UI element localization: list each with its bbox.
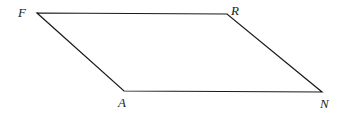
vertex-label-F: F	[18, 6, 26, 19]
vertex-label-R: R	[231, 4, 239, 17]
vertex-label-N: N	[320, 97, 329, 110]
parallelogram-svg	[0, 0, 356, 116]
vertex-label-A: A	[118, 96, 126, 109]
parallelogram-outline	[37, 13, 322, 92]
geometry-figure: F R N A	[0, 0, 356, 116]
